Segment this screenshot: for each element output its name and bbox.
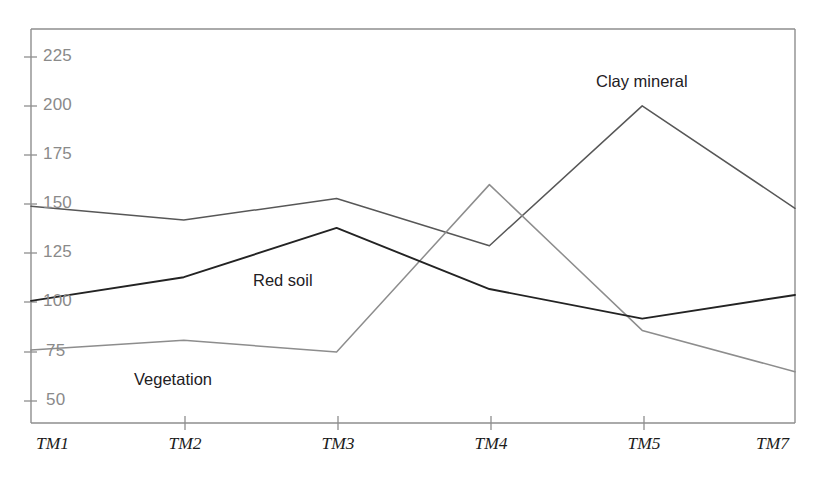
y-tick-label-100: 100 [43,291,72,311]
y-tick-label-150: 150 [43,193,72,213]
series-line-vegetation [31,185,795,372]
plot-area [0,0,839,480]
y-tick-label-175: 175 [43,144,72,164]
series-label-vegetation: Vegetation [134,370,212,389]
y-tick-label-125: 125 [43,242,72,262]
x-tick-label-tm2: TM2 [168,433,201,454]
series-line-red-soil [31,228,795,319]
y-tick-label-50: 50 [46,390,65,410]
y-tick-label-225: 225 [43,46,72,66]
x-tick-label-tm4: TM4 [474,433,507,454]
x-tick-label-tm5: TM5 [627,433,660,454]
y-tick-label-200: 200 [43,95,72,115]
x-tick-label-tm3: TM3 [321,433,354,454]
x-tick-label-tm7: TM7 [756,433,789,454]
series-line-clay-mineral [31,106,795,246]
y-tick-label-75: 75 [46,341,65,361]
spectral-reflectance-line-chart: 225 200 175 150 125 100 75 50 TM1 TM2 TM… [0,0,839,480]
series-label-red-soil: Red soil [253,271,313,290]
x-tick-label-tm1: TM1 [36,433,69,454]
series-label-clay-mineral: Clay mineral [596,72,688,91]
